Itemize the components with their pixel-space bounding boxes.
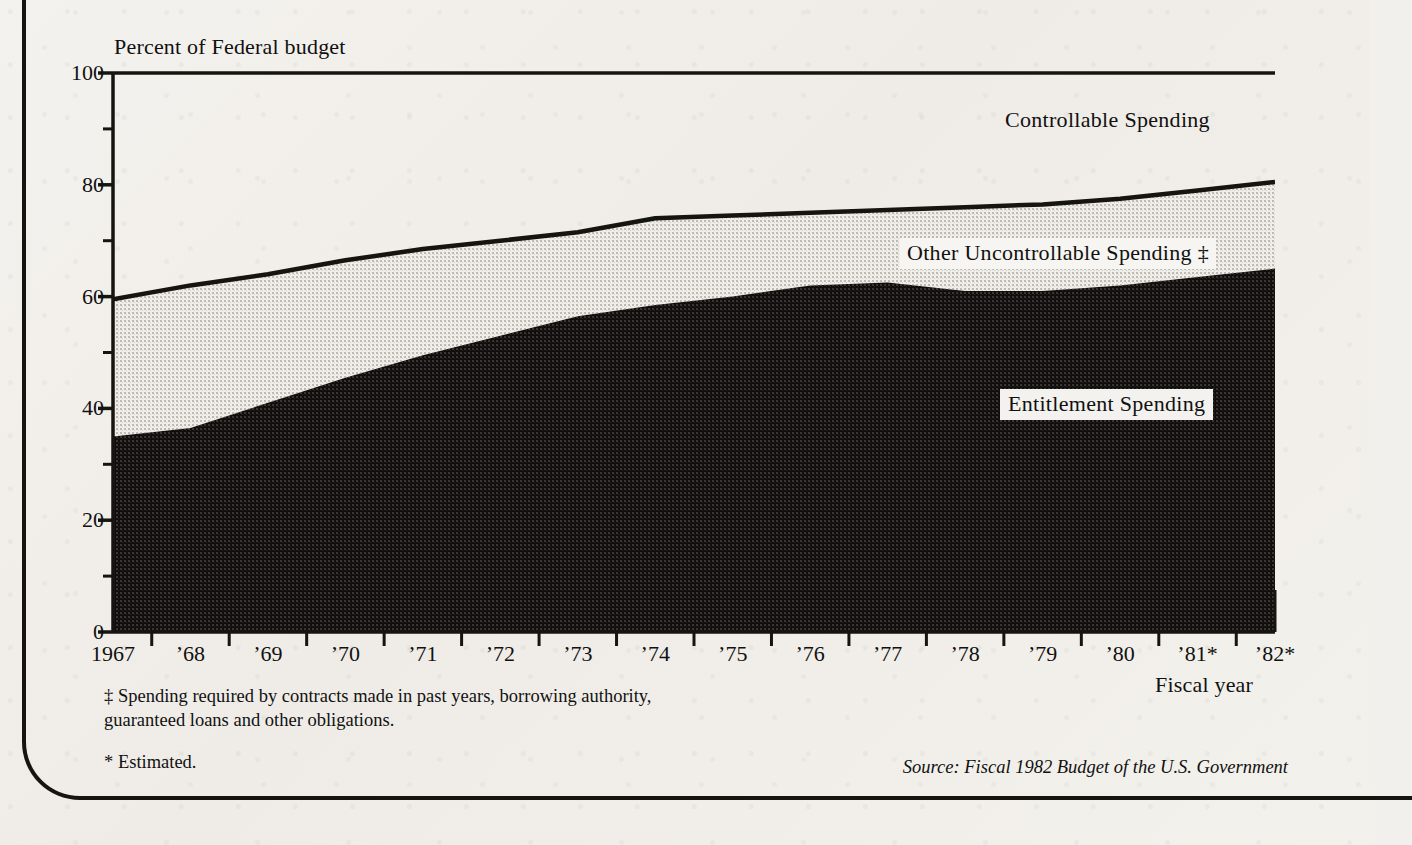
x-tick-label: ’72 xyxy=(486,641,515,667)
x-axis-title: Fiscal year xyxy=(1155,672,1253,698)
y-tick-label: 80 xyxy=(46,172,104,198)
x-tick-label: ’79 xyxy=(1028,641,1057,667)
series-label-entitlement-spending: Entitlement Spending xyxy=(1000,389,1213,420)
source-note: Source: Fiscal 1982 Budget of the U.S. G… xyxy=(0,757,1288,778)
x-tick-label: ’80 xyxy=(1105,641,1134,667)
x-tick-label: ’71 xyxy=(408,641,437,667)
series-label-controllable-spending: Controllable Spending xyxy=(1005,107,1210,133)
x-tick-label: ’82* xyxy=(1255,641,1295,667)
x-tick-label: ’81* xyxy=(1177,641,1217,667)
y-tick-label: 20 xyxy=(46,507,104,533)
x-tick-label: ’76 xyxy=(796,641,825,667)
x-tick-label: ’77 xyxy=(873,641,902,667)
y-axis-title: Percent of Federal budget xyxy=(114,34,346,60)
y-tick-marks xyxy=(98,73,113,632)
x-tick-label: ’69 xyxy=(253,641,282,667)
x-tick-label: 1967 xyxy=(91,641,135,667)
x-tick-marks xyxy=(152,632,1237,646)
footnote-dagger: ‡ Spending required by contracts made in… xyxy=(104,684,652,733)
x-tick-label: ’75 xyxy=(718,641,747,667)
x-tick-label: ’74 xyxy=(641,641,670,667)
x-tick-label: ’68 xyxy=(176,641,205,667)
series-label-other-uncontrollable-spending: Other Uncontrollable Spending ‡ xyxy=(900,238,1216,269)
y-tick-label: 40 xyxy=(46,395,104,421)
x-tick-label: ’78 xyxy=(950,641,979,667)
y-tick-label: 100 xyxy=(46,60,104,86)
x-tick-label: ’73 xyxy=(563,641,592,667)
x-tick-label: ’70 xyxy=(331,641,360,667)
y-tick-label: 60 xyxy=(46,284,104,310)
